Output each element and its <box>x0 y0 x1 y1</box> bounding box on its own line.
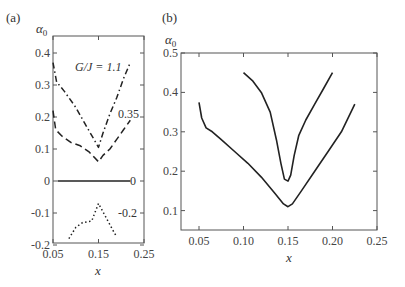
panel-b-frame <box>181 53 377 230</box>
series-line <box>69 203 117 238</box>
y-tick-label: 0.3 <box>163 125 178 139</box>
panel-b: (b) α0 0.50.40.30.20.1 0.050.100.150.200… <box>162 10 388 265</box>
y-tick-label: 0.1 <box>35 142 50 156</box>
x-tick-label: 0.10 <box>233 234 254 248</box>
series-line <box>53 63 130 148</box>
y-tick-label: -0.1 <box>31 206 50 220</box>
panel-b-label: (b) <box>162 10 177 25</box>
y-tick-label: 0 <box>44 174 50 188</box>
panel-a-ylabel: α0 <box>36 21 48 38</box>
panel-b-series <box>199 73 355 207</box>
panel-a-y-ticks: 0.40.30.20.10-0.1-0.2 <box>31 46 144 252</box>
y-tick-label: 0.2 <box>35 110 50 124</box>
x-tick-label: 0.05 <box>189 234 210 248</box>
x-tick-label: 0.25 <box>367 234 388 248</box>
y-tick-label: 0.3 <box>35 78 50 92</box>
x-tick-label: 0.05 <box>43 247 64 261</box>
x-tick-label: 0.15 <box>88 247 109 261</box>
panel-a: (a) α0 0.40.30.20.10-0.1-0.2 0.050.150.2… <box>6 10 155 278</box>
x-tick-label: 0.25 <box>134 247 155 261</box>
annotation-neg-0-2: -0.2 <box>118 206 137 220</box>
y-tick-label: 0.1 <box>163 204 178 218</box>
y-tick-label: 0.5 <box>163 46 178 60</box>
panel-b-y-ticks: 0.50.40.30.20.1 <box>163 46 377 218</box>
x-tick-label: 0.20 <box>322 234 343 248</box>
y-tick-label: 0.4 <box>163 85 178 99</box>
figure-canvas: (a) α0 0.40.30.20.10-0.1-0.2 0.050.150.2… <box>0 0 405 287</box>
annotation-0-35: 0.35 <box>118 107 139 121</box>
annotation-g-over-j: G/J = 1.1 <box>75 60 121 74</box>
panel-a-xlabel: x <box>94 263 101 278</box>
panel-a-label: (a) <box>6 10 20 25</box>
panel-b-xlabel: x <box>285 250 292 265</box>
series-line <box>199 102 355 206</box>
y-tick-label: 0.4 <box>35 46 50 60</box>
x-tick-label: 0.15 <box>278 234 299 248</box>
annotation-0: 0 <box>130 174 136 188</box>
y-tick-label: 0.2 <box>163 164 178 178</box>
panel-b-x-ticks: 0.050.100.150.200.25 <box>189 53 388 248</box>
